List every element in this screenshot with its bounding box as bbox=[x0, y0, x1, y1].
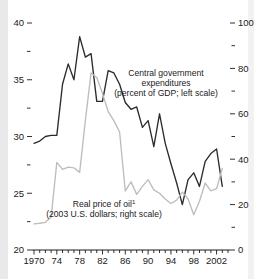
expenditures-annotation-line: Central government bbox=[128, 68, 204, 78]
right-axis-tick-label: 0 bbox=[238, 244, 243, 255]
left-axis-tick-label: 30 bbox=[13, 131, 24, 142]
series-layer bbox=[34, 37, 222, 224]
right-axis-ticks bbox=[230, 23, 235, 250]
x-axis-tick-label: 78 bbox=[74, 255, 85, 266]
x-axis-tick-label: 86 bbox=[120, 255, 131, 266]
left-axis-labels: 4035302520 bbox=[13, 17, 24, 255]
left-axis-tick-label: 25 bbox=[13, 188, 24, 199]
right-axis-tick-label: 80 bbox=[238, 63, 249, 74]
x-axis-tick-label: 94 bbox=[166, 255, 177, 266]
footnote-marker: 1 bbox=[132, 199, 136, 205]
series-line bbox=[34, 37, 222, 205]
x-axis-tick-label: 1970 bbox=[23, 255, 44, 266]
x-axis-ticks bbox=[34, 250, 228, 255]
left-axis-tick-label: 35 bbox=[13, 74, 24, 85]
chart-figure: 4035302520 100806040200 1970747882869094… bbox=[0, 0, 254, 279]
x-axis-tick-label: 82 bbox=[97, 255, 108, 266]
x-axis-tick-label: 74 bbox=[52, 255, 63, 266]
right-axis-tick-label: 100 bbox=[238, 17, 254, 28]
x-axis-tick-label: 90 bbox=[143, 255, 154, 266]
left-axis-ticks bbox=[27, 23, 32, 250]
annotation-layer: Central governmentexpenditures(percent o… bbox=[46, 68, 218, 219]
right-axis-tick-label: 40 bbox=[238, 154, 249, 165]
right-axis-tick-label: 20 bbox=[238, 199, 249, 210]
x-axis-tick-label: 2002 bbox=[206, 255, 227, 266]
expenditures-annotation-line: expenditures bbox=[141, 78, 190, 88]
oil-annotation-text: Real price of oil bbox=[73, 199, 132, 209]
oil-annotation-line: (2003 U.S. dollars; right scale) bbox=[46, 209, 162, 219]
expenditures-annotation-line: (percent of GDP; left scale) bbox=[114, 88, 218, 98]
right-axis-tick-label: 60 bbox=[238, 108, 249, 119]
x-axis-tick-label: 98 bbox=[188, 255, 199, 266]
oil-annotation-line: Real price of oil1 bbox=[73, 199, 136, 209]
x-axis-labels: 1970747882869094982002 bbox=[23, 255, 227, 266]
left-axis-tick-label: 40 bbox=[13, 17, 24, 28]
left-axis-tick-label: 20 bbox=[13, 244, 24, 255]
line-chart-plot: 4035302520 100806040200 1970747882869094… bbox=[0, 0, 254, 279]
right-axis-labels: 100806040200 bbox=[238, 17, 254, 255]
